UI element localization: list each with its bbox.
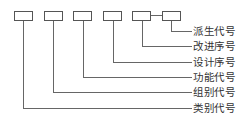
label-function-code: 功能代号 [193,71,235,83]
code-box-4 [103,11,122,21]
code-box-2 [44,11,63,21]
leader-vertical-2 [53,21,54,92]
leader-horizontal-6 [171,31,192,32]
label-group-code: 组别代号 [193,86,235,98]
label-derived-code: 派生代号 [193,25,235,37]
leader-horizontal-1 [23,108,192,109]
leader-vertical-5 [142,21,143,46]
code-box-6 [162,11,181,21]
leader-horizontal-3 [83,77,192,78]
code-box-1 [14,11,33,21]
leader-horizontal-2 [53,92,192,93]
leader-vertical-6 [171,21,172,31]
label-category-code: 类别代号 [193,102,235,114]
leader-horizontal-5 [142,46,192,47]
leader-vertical-4 [113,21,114,62]
leader-vertical-3 [83,21,84,77]
label-design-number: 设计序号 [193,56,235,68]
code-box-3 [73,11,92,21]
leader-horizontal-4 [113,62,192,63]
leader-vertical-1 [23,21,24,108]
box-connector [151,15,162,16]
label-improvement-number: 改进序号 [193,40,235,52]
code-box-5 [132,11,151,21]
